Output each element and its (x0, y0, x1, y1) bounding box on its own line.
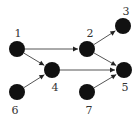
edge-1-to-2 (25, 47, 78, 52)
node-label-4: 4 (52, 81, 59, 94)
arrowhead-icon (110, 68, 115, 73)
node-label-6: 6 (12, 104, 19, 117)
node-label-1: 1 (15, 27, 22, 40)
edge-6-to-4 (24, 75, 45, 88)
edge-7-to-5 (94, 75, 116, 88)
edge-1-to-4 (24, 53, 44, 65)
node-3 (115, 18, 131, 34)
labels-layer: 1234567 (12, 5, 130, 117)
node-7 (79, 84, 95, 100)
node-label-5: 5 (122, 81, 129, 94)
node-5 (116, 62, 132, 78)
directed-graph: 1234567 (0, 0, 139, 123)
node-1 (9, 41, 25, 57)
node-6 (9, 84, 25, 100)
edge-4-to-5 (60, 68, 115, 73)
edge-2-to-5 (94, 53, 116, 66)
node-label-2: 2 (87, 27, 94, 40)
node-2 (79, 41, 95, 57)
edge-2-to-3 (94, 31, 116, 45)
edges-layer (24, 31, 116, 88)
nodes-layer (9, 18, 132, 100)
node-label-3: 3 (123, 5, 130, 18)
node-4 (44, 62, 60, 78)
node-label-7: 7 (86, 104, 93, 117)
arrowhead-icon (73, 47, 78, 52)
arrowhead-icon (110, 31, 116, 36)
